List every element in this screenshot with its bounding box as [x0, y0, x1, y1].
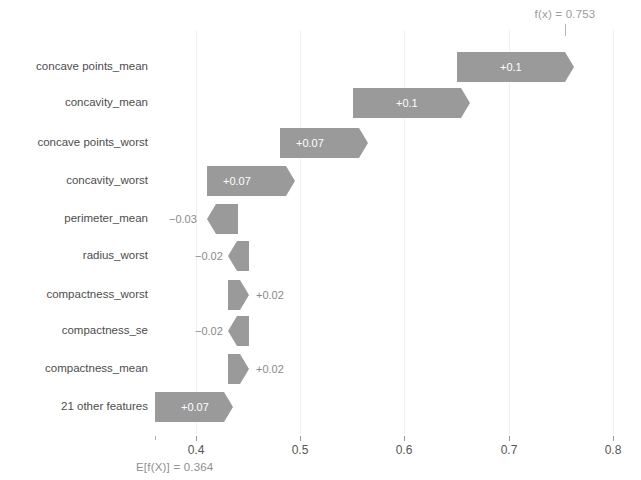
bar-compactness-se	[228, 316, 249, 346]
y-axis-label: compactness_se	[62, 325, 148, 337]
y-axis-label: compactness_mean	[45, 363, 148, 375]
x-axis-tick-label: 0.8	[605, 443, 622, 457]
bar-value-label: +0.07	[181, 402, 209, 413]
y-axis-label: concave points_worst	[37, 137, 148, 149]
x-axis-tick	[196, 436, 197, 441]
x-axis-tick-label: 0.6	[396, 443, 413, 457]
bar-value-label: +0.07	[296, 138, 324, 149]
bar-value-label: −0.03	[169, 214, 197, 225]
x-axis-base-tick	[155, 436, 156, 440]
bar-compactness-mean	[228, 354, 249, 384]
y-axis-label: compactness_worst	[46, 289, 148, 301]
y-axis-label: concavity_worst	[66, 175, 148, 187]
x-axis-tick	[300, 436, 301, 441]
bar-concavity-worst	[207, 166, 295, 196]
bar-value-label: −0.02	[195, 326, 223, 337]
bar-value-label: +0.02	[256, 364, 284, 375]
bar-value-label: +0.07	[223, 176, 251, 187]
x-axis-tick-label: 0.5	[292, 443, 309, 457]
shap-waterfall-chart: f(x) = 0.753 concave points_mean concavi…	[0, 0, 641, 480]
output-value-label: f(x) = 0.753	[535, 8, 596, 20]
output-value-tick	[565, 24, 566, 36]
bar-value-label: +0.1	[396, 98, 418, 109]
y-axis-label: 21 other features	[61, 401, 148, 413]
y-axis-label: radius_worst	[83, 250, 148, 262]
y-axis-label: concavity_mean	[65, 97, 148, 109]
y-axis-labels: concave points_mean concavity_mean conca…	[0, 0, 148, 480]
base-value-label: E[f(X)] = 0.364	[136, 461, 213, 473]
gridline	[196, 30, 197, 434]
x-axis-tick-label: 0.4	[188, 443, 205, 457]
x-axis-tick	[613, 436, 614, 441]
bar-compactness-worst	[228, 280, 249, 310]
x-axis-tick	[509, 436, 510, 441]
gridline	[509, 30, 510, 434]
y-axis-label: perimeter_mean	[64, 213, 148, 225]
gridline	[300, 30, 301, 434]
bar-value-label: +0.02	[256, 290, 284, 301]
bar-concave-points-worst	[280, 128, 368, 158]
x-axis-tick	[404, 436, 405, 441]
gridline	[613, 30, 614, 434]
x-axis-tick-label: 0.7	[501, 443, 518, 457]
y-axis-label: concave points_mean	[36, 61, 148, 73]
bar-value-label: −0.02	[195, 251, 223, 262]
bar-value-label: +0.1	[500, 62, 522, 73]
bar-perimeter-mean	[207, 204, 238, 234]
bar-radius-worst	[228, 241, 249, 271]
